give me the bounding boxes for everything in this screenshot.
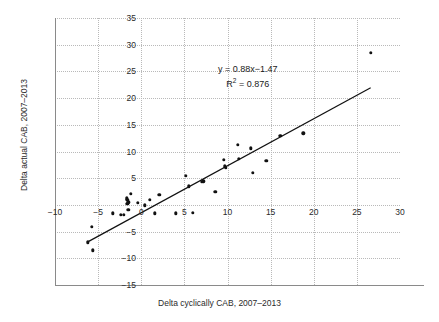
r-squared-value: = 0.876 [236, 79, 269, 89]
y-tick-label-35: 35 [127, 13, 136, 23]
x-tick-label--10: −10 [48, 207, 62, 217]
scatter-plot-figure: −15−10−55101520253035 −10−5051015202530 … [0, 0, 439, 322]
y-axis-ticks: −15−10−55101520253035 [108, 18, 136, 285]
y-tick-label-25: 25 [127, 66, 136, 76]
x-tick-label-5: 5 [182, 207, 187, 217]
y-axis-label: Delta actual CAB, 2007–2013 [19, 15, 29, 255]
y-tick-label--10: −10 [122, 253, 136, 263]
y-tick-label-30: 30 [127, 40, 136, 50]
x-tick-label-10: 10 [223, 207, 232, 217]
y-tick-label--5: −5 [126, 227, 136, 237]
regression-annotation: y = 0.88x−1.47 R2 = 0.876 [218, 63, 278, 91]
y-tick-label-20: 20 [127, 93, 136, 103]
y-axis-spine [55, 18, 56, 285]
x-tick-label-20: 20 [309, 207, 318, 217]
y-tick-label-10: 10 [127, 147, 136, 157]
x-axis-spine [55, 285, 424, 286]
x-tick-label-0: 0 [139, 207, 144, 217]
x-tick-label--5: −5 [93, 207, 103, 217]
regression-line [55, 18, 400, 285]
x-axis-ticks: −10−5051015202530 [55, 207, 400, 221]
x-axis-label: Delta cyclically CAB, 2007–2013 [0, 298, 439, 308]
x-tick-label-25: 25 [352, 207, 361, 217]
equation-text: y = 0.88x−1.47 [218, 63, 278, 76]
y-tick-label--15: −15 [122, 280, 136, 290]
y-tick-label-15: 15 [127, 120, 136, 130]
x-tick-label-30: 30 [395, 207, 404, 217]
plot-area [55, 18, 400, 285]
y-tick-label-5: 5 [131, 173, 136, 183]
x-tick-label-15: 15 [266, 207, 275, 217]
r-squared-text: R2 = 0.876 [218, 76, 278, 91]
